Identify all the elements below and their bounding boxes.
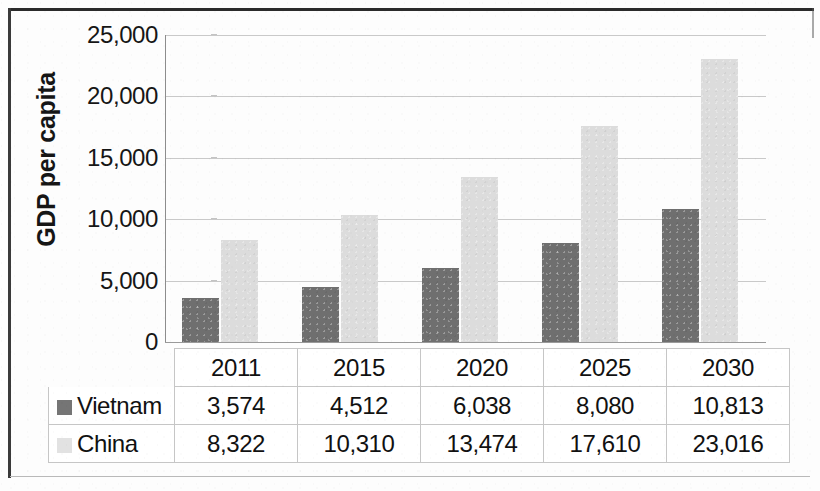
legend-entry-vietnam: Vietnam bbox=[49, 387, 175, 425]
table-corner-cell bbox=[49, 349, 175, 387]
legend-label: China bbox=[77, 430, 138, 457]
bar-china-2020[interactable] bbox=[461, 177, 498, 342]
table-cell: 8,322 bbox=[175, 425, 298, 463]
table-cell: 10,813 bbox=[667, 387, 790, 425]
bar-china-2015[interactable] bbox=[341, 215, 378, 342]
legend-entry-china: China bbox=[49, 425, 175, 463]
bar-group bbox=[286, 35, 406, 342]
bar-china-2025[interactable] bbox=[581, 126, 618, 342]
bar-group bbox=[166, 35, 286, 342]
gdp-per-capita-figure: GDP per capita 25,00020,00015,00010,0005… bbox=[0, 0, 820, 491]
bar-china-2030[interactable] bbox=[701, 59, 738, 342]
legend-swatch-icon bbox=[57, 438, 72, 453]
table-body: Vietnam3,5744,5126,0388,08010,813China8,… bbox=[49, 387, 790, 463]
bar-china-2011[interactable] bbox=[221, 240, 258, 342]
bar-group bbox=[526, 35, 646, 342]
bar-vietnam-2015[interactable] bbox=[302, 287, 339, 342]
table-header-2030: 2030 bbox=[667, 349, 790, 387]
bar-vietnam-2030[interactable] bbox=[662, 209, 699, 342]
table-row: China8,32210,31013,47417,61023,016 bbox=[49, 425, 790, 463]
y-tick-label: 25,000 bbox=[52, 21, 158, 49]
legend-label: Vietnam bbox=[77, 392, 162, 419]
table-header-2020: 2020 bbox=[421, 349, 544, 387]
table-cell: 3,574 bbox=[175, 387, 298, 425]
table-header-2011: 2011 bbox=[175, 349, 298, 387]
table-cell: 23,016 bbox=[667, 425, 790, 463]
bar-group bbox=[406, 35, 526, 342]
bar-vietnam-2020[interactable] bbox=[422, 268, 459, 342]
chart-data-table: 20112015202020252030 Vietnam3,5744,5126,… bbox=[48, 348, 790, 463]
table-cell: 17,610 bbox=[544, 425, 667, 463]
table-header-2025: 2025 bbox=[544, 349, 667, 387]
y-tick-label: 5,000 bbox=[52, 267, 158, 295]
table-cell: 4,512 bbox=[298, 387, 421, 425]
bar-vietnam-2025[interactable] bbox=[542, 243, 579, 342]
y-tick-label: 10,000 bbox=[52, 205, 158, 233]
table-header-2015: 2015 bbox=[298, 349, 421, 387]
table-cell: 8,080 bbox=[544, 387, 667, 425]
table-cell: 6,038 bbox=[421, 387, 544, 425]
plot-area bbox=[165, 35, 766, 342]
table-cell: 13,474 bbox=[421, 425, 544, 463]
table-row: Vietnam3,5744,5126,0388,08010,813 bbox=[49, 387, 790, 425]
bar-group bbox=[646, 35, 766, 342]
table-header-row: 20112015202020252030 bbox=[49, 349, 790, 387]
y-tick-label: 20,000 bbox=[52, 82, 158, 110]
bar-vietnam-2011[interactable] bbox=[182, 298, 219, 342]
y-tick-label: 15,000 bbox=[52, 144, 158, 172]
legend-swatch-icon bbox=[57, 400, 72, 415]
x-axis-baseline bbox=[165, 342, 766, 343]
table-cell: 10,310 bbox=[298, 425, 421, 463]
